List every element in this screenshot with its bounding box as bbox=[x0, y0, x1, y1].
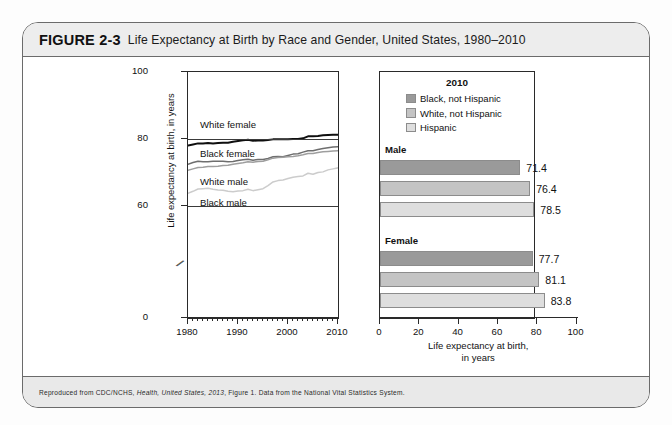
x-minor-tick bbox=[292, 317, 293, 321]
line-label-white-male: White male bbox=[200, 176, 248, 187]
x-minor-tick bbox=[322, 317, 323, 321]
bar-chart-x-tick-label: 60 bbox=[492, 326, 503, 337]
legend-item-2: Hispanic bbox=[406, 122, 456, 133]
bar-chart-x-tick-label: 80 bbox=[531, 326, 542, 337]
bar-chart-title: 2010 bbox=[380, 77, 534, 88]
bar-chart-plot-area: 2010 Black, not HispanicWhite, not Hispa… bbox=[379, 71, 535, 319]
line-chart-y-tick-label: 60 bbox=[116, 199, 148, 210]
bar-male-1 bbox=[380, 181, 530, 196]
line-chart-x-tick-label: 2000 bbox=[276, 326, 297, 337]
figure-credit: Reproduced from CDC/NCHS, Health, United… bbox=[39, 389, 405, 396]
x-minor-tick bbox=[327, 317, 328, 321]
x-minor-tick bbox=[277, 317, 278, 321]
bar-x-label-line2: in years bbox=[379, 352, 578, 364]
x-minor-tick bbox=[202, 317, 203, 321]
bar-chart-x-axis-line bbox=[379, 317, 578, 318]
x-minor-tick bbox=[282, 317, 283, 321]
figure-number: FIGURE 2-3 bbox=[39, 32, 121, 48]
bar-chart-x-tick-label: 100 bbox=[567, 326, 583, 337]
x-minor-tick bbox=[232, 317, 233, 321]
figure-frame: FIGURE 2-3 Life Expectancy at Birth by R… bbox=[22, 22, 650, 408]
line-chart-y-tick-label: 100 bbox=[116, 65, 148, 76]
bar-female-0 bbox=[380, 251, 533, 266]
x-minor-tick bbox=[192, 317, 193, 321]
line-chart-y-tick-label: 80 bbox=[116, 132, 148, 143]
line-chart-x-tick-label: 1980 bbox=[176, 326, 197, 337]
line-label-white-female: White female bbox=[200, 119, 256, 130]
x-minor-tick bbox=[302, 317, 303, 321]
line-label-black-female: Black female bbox=[200, 148, 255, 159]
bar-x-major-tick bbox=[458, 317, 459, 324]
line-chart-plot-area: White femaleBlack femaleWhite maleBlack … bbox=[187, 71, 339, 319]
figure-screenshot: FIGURE 2-3 Life Expectancy at Birth by R… bbox=[0, 0, 672, 425]
legend-label-1: White, not Hispanic bbox=[420, 108, 502, 119]
bar-group-label-female: Female bbox=[385, 235, 418, 246]
figure-body: Life expectancy at birth, in years 10080… bbox=[23, 57, 649, 378]
line-chart-series-svg bbox=[188, 72, 338, 318]
legend-item-0: Black, not Hispanic bbox=[406, 93, 501, 104]
x-minor-tick bbox=[307, 317, 308, 321]
bar-chart-x-tick-label: 20 bbox=[413, 326, 424, 337]
bar-x-major-tick bbox=[379, 317, 380, 324]
legend-swatch-0 bbox=[406, 94, 416, 104]
legend-item-1: White, not Hispanic bbox=[406, 108, 502, 119]
x-minor-tick bbox=[252, 317, 253, 321]
x-major-tick bbox=[237, 317, 238, 324]
line-chart-gridline bbox=[188, 139, 338, 140]
bar-x-major-tick bbox=[576, 317, 577, 324]
bar-chart-x-axis-label: Life expectancy at birth,in years bbox=[379, 340, 578, 363]
bar-x-label-line1: Life expectancy at birth, bbox=[379, 340, 578, 352]
bar-value-male-0: 71.4 bbox=[526, 162, 547, 174]
bar-value-male-2: 78.5 bbox=[540, 204, 561, 216]
legend-swatch-2 bbox=[406, 123, 416, 133]
credit-source-italic: Health, United States, 2013 bbox=[137, 389, 224, 396]
line-chart-y-axis-label: Life expectancy at birth, in years bbox=[165, 76, 176, 246]
x-minor-tick bbox=[297, 317, 298, 321]
bar-male-2 bbox=[380, 202, 534, 217]
bar-chart-x-tick-label: 0 bbox=[376, 326, 381, 337]
legend-label-2: Hispanic bbox=[420, 122, 456, 133]
bar-x-major-tick bbox=[536, 317, 537, 324]
line-label-black-male: Black male bbox=[200, 197, 247, 208]
x-minor-tick bbox=[317, 317, 318, 321]
bar-x-major-tick bbox=[418, 317, 419, 324]
bar-male-0 bbox=[380, 160, 520, 175]
x-minor-tick bbox=[257, 317, 258, 321]
x-minor-tick bbox=[267, 317, 268, 321]
legend-label-0: Black, not Hispanic bbox=[420, 93, 501, 104]
y-axis-break-icon: ∕∕ bbox=[177, 258, 183, 269]
x-minor-tick bbox=[272, 317, 273, 321]
bar-chart-x-tick-label: 40 bbox=[452, 326, 463, 337]
bar-female-2 bbox=[380, 293, 545, 308]
x-minor-tick bbox=[207, 317, 208, 321]
x-major-tick bbox=[337, 317, 338, 324]
bar-chart: 2010 Black, not HispanicWhite, not Hispa… bbox=[375, 59, 645, 369]
line-chart-y-tick-label: 0 bbox=[116, 311, 148, 322]
x-minor-tick bbox=[217, 317, 218, 321]
line-chart: Life expectancy at birth, in years 10080… bbox=[131, 59, 363, 369]
line-chart-x-tick-label: 2010 bbox=[326, 326, 347, 337]
x-minor-tick bbox=[227, 317, 228, 321]
x-minor-tick bbox=[222, 317, 223, 321]
bar-value-female-0: 77.7 bbox=[539, 253, 560, 265]
x-minor-tick bbox=[197, 317, 198, 321]
x-minor-tick bbox=[247, 317, 248, 321]
figure-footer: Reproduced from CDC/NCHS, Health, United… bbox=[23, 376, 649, 407]
x-minor-tick bbox=[312, 317, 313, 321]
line-chart-x-tick-label: 1990 bbox=[226, 326, 247, 337]
bar-value-female-1: 81.1 bbox=[545, 274, 566, 286]
bar-group-label-male: Male bbox=[385, 144, 406, 155]
bar-value-male-1: 76.4 bbox=[536, 183, 557, 195]
x-minor-tick bbox=[332, 317, 333, 321]
x-major-tick bbox=[287, 317, 288, 324]
bar-x-major-tick bbox=[497, 317, 498, 324]
legend-swatch-1 bbox=[406, 108, 416, 118]
figure-title: Life Expectancy at Birth by Race and Gen… bbox=[128, 33, 526, 47]
credit-prefix: Reproduced from CDC/NCHS, bbox=[39, 389, 137, 396]
x-minor-tick bbox=[242, 317, 243, 321]
bar-value-female-2: 83.8 bbox=[551, 295, 572, 307]
x-minor-tick bbox=[262, 317, 263, 321]
bar-female-1 bbox=[380, 272, 539, 287]
figure-header: FIGURE 2-3 Life Expectancy at Birth by R… bbox=[23, 23, 649, 57]
x-major-tick bbox=[187, 317, 188, 324]
